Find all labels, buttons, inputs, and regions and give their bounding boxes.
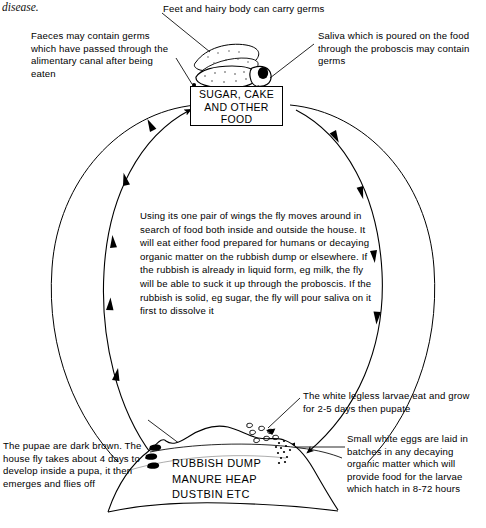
food-box-label: SUGAR, CAKE AND OTHER FOOD: [190, 86, 283, 126]
annotation-saliva: Saliva which is poured on the food throu…: [318, 30, 483, 68]
annotation-faeces: Faeces may contain germs which have pass…: [31, 30, 171, 80]
annotation-feet: Feet and hairy body can carry germs: [163, 3, 338, 16]
annotation-feeding-behaviour: Using its one pair of wings the fly move…: [140, 209, 375, 318]
annotation-eggs: Small white eggs are laid in batches in …: [347, 433, 486, 496]
annotation-larvae: The white legless larvae eat and grow fo…: [303, 390, 473, 415]
diagram-page: disease.: [0, 0, 486, 528]
rubbish-dump-label: RUBBISH DUMP MANURE HEAP DUSTBIN ETC: [172, 456, 312, 503]
annotation-pupae: The pupae are dark brown. The house fly …: [3, 440, 151, 490]
